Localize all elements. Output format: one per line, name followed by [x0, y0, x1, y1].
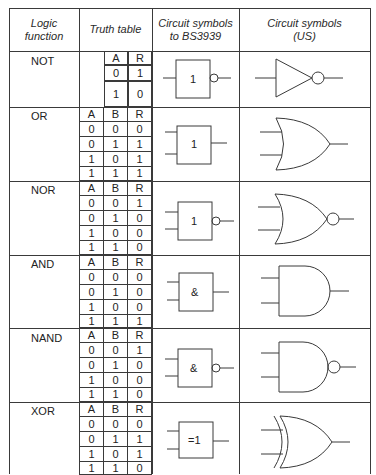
tt-header: R [128, 51, 152, 65]
tt-cell: 0 [104, 65, 128, 81]
header-truth-table-text: Truth table [79, 23, 152, 36]
function-name-nand: NAND [31, 332, 62, 344]
tt-cell: 0 [103, 342, 128, 358]
tt-cell: 0 [127, 461, 152, 475]
table-border-left [9, 8, 10, 474]
not-gate-bs-symbol-icon: 1 [152, 51, 239, 107]
tt-cell: 1 [79, 372, 104, 388]
tt-cell: 1 [127, 314, 152, 328]
tt-cell: 1 [128, 65, 152, 81]
tt-header: R [127, 255, 152, 270]
tt-cell: 1 [127, 166, 152, 181]
tt-cell: 0 [79, 269, 104, 285]
tt-cell: 0 [127, 121, 152, 137]
nor-gate-us-symbol-icon [239, 181, 370, 255]
tt-cell: 1 [103, 461, 128, 475]
tt-cell: 1 [104, 81, 128, 107]
xor-gate-bs-symbol-icon: =1 [152, 402, 239, 474]
tt-cell: 0 [127, 387, 152, 402]
tt-cell: 1 [103, 314, 128, 328]
bs-label-and: & [191, 286, 199, 298]
tt-header: R [127, 328, 152, 343]
tt-cell: 1 [79, 387, 104, 402]
header-us-line1: Circuit symbols [239, 17, 370, 30]
function-name-xor: XOR [31, 405, 55, 417]
tt-cell: 0 [127, 225, 152, 241]
function-name-not: NOT [31, 55, 54, 67]
header-us-line2: (US) [239, 30, 370, 43]
tt-header: R [127, 402, 152, 417]
tt-cell: 0 [103, 269, 128, 285]
bs-label-not: 1 [190, 73, 196, 85]
tt-cell: 1 [103, 240, 128, 255]
bs-label-nor: 1 [191, 215, 197, 227]
tt-header: A [79, 402, 104, 417]
tt-cell: 1 [103, 284, 128, 300]
header-logic-function-line1: Logic [9, 17, 79, 30]
tt-cell: 1 [127, 342, 152, 358]
tt-cell: 0 [127, 416, 152, 432]
tt-cell: 0 [103, 151, 128, 167]
tt-header: A [104, 51, 128, 65]
tt-cell: 1 [127, 136, 152, 152]
tt-cell: 0 [103, 416, 128, 432]
tt-cell: 0 [103, 299, 128, 315]
tt-header: B [103, 255, 128, 270]
tt-cell: 0 [79, 136, 104, 152]
nand-gate-bs-symbol-icon: & [152, 328, 239, 402]
tt-cell: 1 [127, 195, 152, 211]
tt-cell: 1 [103, 387, 128, 402]
tt-header: B [103, 107, 128, 122]
tt-cell: 0 [127, 372, 152, 388]
tt-cell: 1 [127, 151, 152, 167]
nand-gate-us-symbol-icon [239, 328, 370, 402]
tt-cell: 1 [79, 446, 104, 462]
tt-cell: 0 [127, 284, 152, 300]
xor-gate-us-symbol-icon [239, 402, 370, 474]
table-border-top [9, 8, 371, 9]
function-name-nor: NOR [31, 184, 55, 196]
header-logic-function-line2: function [9, 30, 79, 43]
tt-header: A [79, 328, 104, 343]
tt-cell: 0 [103, 195, 128, 211]
tt-cell: 1 [79, 314, 104, 328]
tt-cell: 1 [103, 357, 128, 373]
tt-cell: 0 [128, 81, 152, 107]
tt-cell: 1 [79, 299, 104, 315]
tt-cell: 0 [127, 269, 152, 285]
tt-header: A [79, 255, 104, 270]
tt-cell: 0 [103, 121, 128, 137]
bs-label-xor: =1 [188, 434, 201, 446]
tt-cell: 0 [103, 225, 128, 241]
header-truth-table: Truth table [79, 23, 152, 36]
tt-header: R [127, 107, 152, 122]
tt-cell: 0 [127, 299, 152, 315]
tt-cell: 1 [103, 210, 128, 226]
tt-cell: 1 [127, 446, 152, 462]
and-gate-us-symbol-icon [239, 255, 370, 328]
tt-cell: 0 [79, 357, 104, 373]
header-bs3939: Circuit symbols to BS3939 [152, 17, 239, 43]
bs-label-nand: & [190, 362, 198, 374]
tt-cell: 0 [103, 446, 128, 462]
function-name-and: AND [31, 258, 54, 270]
tt-cell: 1 [103, 166, 128, 181]
tt-cell: 1 [79, 461, 104, 475]
tt-cell: 0 [79, 416, 104, 432]
tt-cell: 0 [127, 210, 152, 226]
tt-cell: 0 [79, 284, 104, 300]
tt-cell: 0 [79, 210, 104, 226]
tt-cell: 1 [79, 151, 104, 167]
tt-header: A [79, 181, 104, 196]
tt-cell: 0 [79, 431, 104, 447]
tt-cell: 1 [79, 225, 104, 241]
tt-cell: 0 [79, 195, 104, 211]
tt-cell: 0 [103, 372, 128, 388]
or-gate-us-symbol-icon [239, 107, 370, 181]
tt-cell: 1 [127, 431, 152, 447]
tt-header: R [127, 181, 152, 196]
tt-header: B [103, 402, 128, 417]
tt-header: A [79, 107, 104, 122]
header-bs3939-line1: Circuit symbols [152, 17, 239, 30]
function-name-or: OR [31, 110, 48, 122]
